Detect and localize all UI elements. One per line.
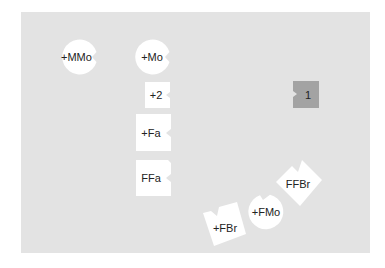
piece-1[interactable]: 1 (293, 81, 319, 108)
piece-mmo[interactable]: +MMo (63, 39, 99, 75)
piece-fbr[interactable]: +FBr (203, 201, 247, 247)
piece-label: +Fa (136, 114, 171, 151)
piece-2[interactable]: +2 (145, 82, 170, 108)
piece-ffa[interactable]: FFa (136, 160, 171, 196)
piece-label: +MMo (61, 39, 97, 75)
piece-label: +2 (145, 82, 170, 108)
piece-fa[interactable]: +Fa (136, 114, 171, 151)
piece-label: 1 (293, 81, 319, 108)
piece-label: +FMo (248, 194, 284, 230)
piece-fmo[interactable]: +FMo (248, 194, 284, 230)
piece-label: +Mo (136, 39, 172, 75)
piece-mo[interactable]: +Mo (136, 39, 172, 75)
piece-label: FFa (136, 160, 171, 196)
piece-label: +FBr (203, 201, 247, 247)
